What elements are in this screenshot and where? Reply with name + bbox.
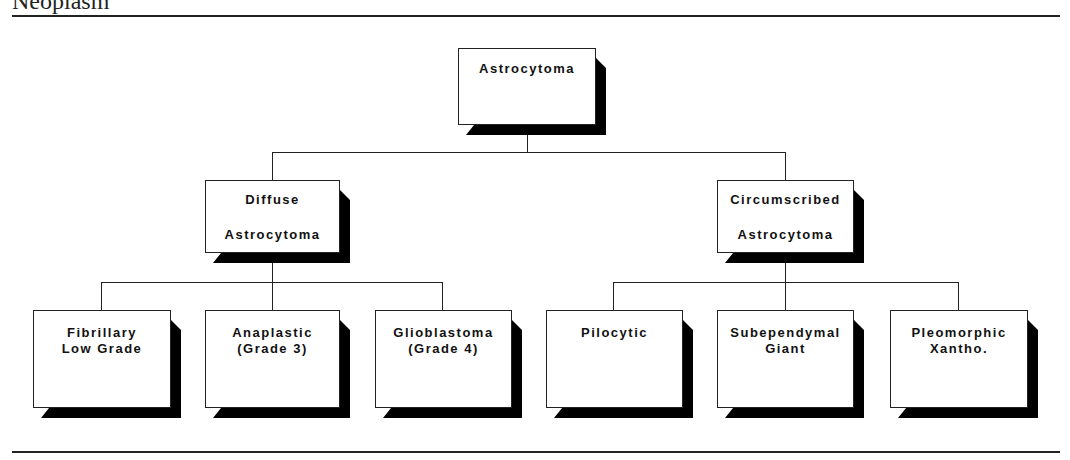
page-title: Neoplasm (12, 0, 109, 15)
connector (272, 152, 786, 153)
node-label: Astrocytoma (718, 227, 853, 243)
node-subependymal-giant: Subependymal Giant (717, 310, 854, 408)
node-circumscribed-astrocytoma: Circumscribed Astrocytoma (717, 180, 854, 253)
connector (785, 262, 786, 283)
connector (613, 282, 614, 310)
node-label: Giant (718, 341, 853, 357)
node-label: Anaplastic (206, 325, 339, 341)
connector (101, 282, 102, 310)
node-label: Glioblastoma (376, 325, 511, 341)
connector (613, 282, 959, 283)
node-label: Pilocytic (547, 325, 682, 341)
node-anaplastic: Anaplastic (Grade 3) (205, 310, 340, 408)
node-label: Fibrillary (34, 325, 170, 341)
node-label: Astrocytoma (459, 61, 595, 77)
connector (272, 152, 273, 180)
node-diffuse-astrocytoma: Diffuse Astrocytoma (205, 180, 340, 253)
bottom-rule (12, 451, 1060, 453)
connector (785, 282, 786, 310)
node-label: Low Grade (34, 341, 170, 357)
connector (272, 282, 273, 310)
node-label: (Grade 4) (376, 341, 511, 357)
node-pilocytic: Pilocytic (546, 310, 683, 408)
connector (442, 282, 443, 310)
node-astrocytoma: Astrocytoma (458, 48, 596, 125)
node-label: Diffuse (206, 192, 339, 208)
node-glioblastoma: Glioblastoma (Grade 4) (375, 310, 512, 408)
node-label: (Grade 3) (206, 341, 339, 357)
node-label: Astrocytoma (206, 227, 339, 243)
node-label: Xantho. (891, 341, 1027, 357)
node-label: Subependymal (718, 325, 853, 341)
node-label: Pleomorphic (891, 325, 1027, 341)
top-rule (12, 15, 1060, 17)
connector (272, 262, 273, 283)
node-fibrillary-low-grade: Fibrillary Low Grade (33, 310, 171, 408)
connector (958, 282, 959, 310)
node-label: Circumscribed (718, 192, 853, 208)
node-pleomorphic-xantho: Pleomorphic Xantho. (890, 310, 1028, 408)
connector (785, 152, 786, 180)
